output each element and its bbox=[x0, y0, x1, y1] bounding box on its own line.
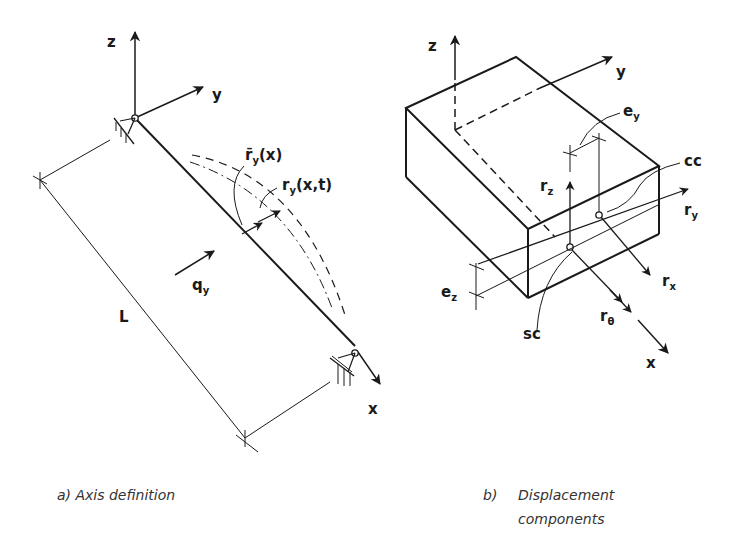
rbar-leader-line bbox=[234, 166, 244, 225]
load-q-arrow-icon bbox=[175, 251, 214, 275]
rbar-y-arrow-icon bbox=[242, 223, 262, 234]
y-axis-arrow-icon bbox=[540, 57, 612, 88]
x-axis-arrow-icon bbox=[638, 320, 668, 353]
pin-support-left-icon bbox=[114, 115, 138, 144]
label-r-y: ry(x,t) bbox=[282, 176, 332, 196]
r-x-arrow-icon bbox=[601, 217, 650, 275]
label-z: z bbox=[428, 37, 437, 55]
caption-b-line2: components bbox=[518, 511, 605, 527]
label-cc: cc bbox=[684, 152, 702, 170]
label-rbar-y: r̄y(x) bbox=[245, 146, 282, 166]
figure-canvas: z y x L qy r̄y(x) ry(x,t) a) Axis defini… bbox=[0, 0, 732, 548]
panel-a-axis-definition: z y x L qy r̄y(x) ry(x,t) a) Axis defini… bbox=[33, 32, 380, 503]
label-x: x bbox=[368, 400, 378, 418]
label-y: y bbox=[212, 86, 222, 104]
label-r-theta: rθ bbox=[600, 307, 614, 327]
label-r-z: rz bbox=[540, 177, 553, 197]
label-x: x bbox=[646, 354, 656, 372]
label-r-y: ry bbox=[684, 201, 698, 221]
panel-b-displacement-components: z y x ey ez cc sc rz ry rx rθ b) Displac… bbox=[406, 36, 702, 527]
y-axis-arrow-icon bbox=[135, 87, 203, 118]
label-e-z: ez bbox=[441, 283, 457, 303]
cross-section-box bbox=[406, 57, 659, 298]
pin-support-right-icon bbox=[330, 350, 358, 386]
caption-a: a) Axis definition bbox=[57, 487, 175, 503]
label-r-x: rx bbox=[662, 272, 676, 292]
label-e-y: ey bbox=[623, 102, 640, 122]
caption-b-prefix: b) bbox=[483, 487, 497, 503]
x-axis-arrow-icon bbox=[358, 352, 380, 384]
label-sc: sc bbox=[523, 325, 541, 343]
label-q: qy bbox=[192, 276, 210, 296]
caption-b-line1: Displacement bbox=[518, 487, 615, 503]
label-z: z bbox=[107, 33, 116, 51]
r-y-arrow-icon bbox=[478, 189, 688, 264]
label-y: y bbox=[616, 63, 626, 81]
ey-leader-line bbox=[580, 113, 620, 145]
label-L: L bbox=[119, 308, 129, 326]
